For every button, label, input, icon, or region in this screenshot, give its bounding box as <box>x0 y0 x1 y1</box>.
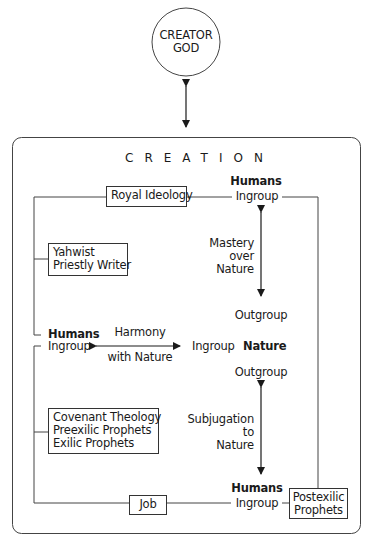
subjugation-label: Subjugation to Nature <box>180 413 254 452</box>
middle-ingroup-left-label: Ingroup <box>48 340 91 353</box>
top-ingroup-label: Ingroup <box>236 190 279 203</box>
job-box: Job <box>129 495 167 515</box>
creator-god-label: CREATOR GOD <box>152 29 220 55</box>
mastery-line3: Nature <box>200 263 254 276</box>
middle-ingroup-right-label: Ingroup <box>192 340 235 353</box>
harmony-label-line1: Harmony <box>114 326 165 339</box>
subjugation-line3: Nature <box>180 439 254 452</box>
yahwist-line2: Priestly Writer <box>53 259 123 272</box>
bottom-ingroup-label: Ingroup <box>236 497 279 510</box>
outgroup-bottom-label: Outgroup <box>235 366 288 379</box>
nature-label: Nature <box>243 340 286 353</box>
right-connector <box>282 197 318 488</box>
yahwist-box: Yahwist Priestly Writer <box>48 243 128 276</box>
god-line2: GOD <box>152 42 220 55</box>
bottom-humans-label: Humans <box>231 482 282 495</box>
royal-ideology-box: Royal Ideology <box>106 186 187 207</box>
covenant-box: Covenant Theology Preexilic Prophets Exi… <box>48 408 159 454</box>
harmony-label-line2: with Nature <box>108 351 173 364</box>
covenant-line3: Exilic Prophets <box>53 437 154 450</box>
mastery-label: Mastery over Nature <box>200 237 254 276</box>
outgroup-top-label: Outgroup <box>235 309 288 322</box>
postexilic-prophets-box: Postexilic Prophets <box>289 488 348 519</box>
postexilic-line2: Prophets <box>290 504 347 517</box>
creation-title: CREATION <box>125 151 274 165</box>
top-humans-label: Humans <box>230 175 281 188</box>
